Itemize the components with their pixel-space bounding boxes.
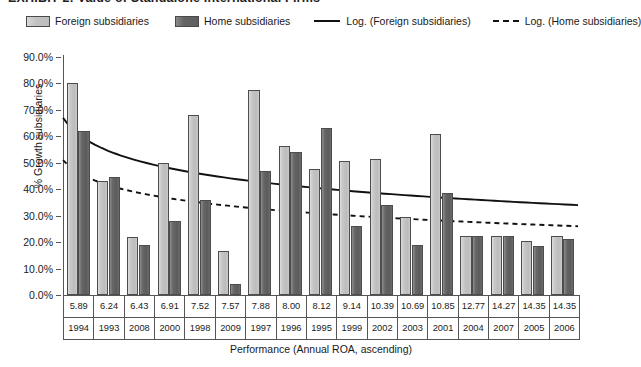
x-category-column: 8.121995	[306, 295, 337, 340]
bar-foreign	[248, 90, 259, 295]
y-tick-mark-10	[56, 269, 61, 270]
x-label-roa: 6.43	[125, 295, 154, 318]
bar-foreign	[460, 236, 471, 296]
x-label-roa: 10.85	[428, 295, 457, 318]
legend-label-log-foreign: Log. (Foreign subsidiaries)	[346, 15, 470, 27]
bar-home	[381, 205, 392, 295]
bar-foreign	[67, 83, 78, 295]
y-tick-label-0: 0.0%	[29, 289, 53, 301]
y-tick-mark-0	[56, 295, 61, 296]
x-label-roa: 12.77	[459, 295, 488, 318]
x-category-column: 14.272007	[488, 295, 519, 340]
x-label-year: 1997	[246, 318, 275, 341]
y-tick-label-50: 50.0%	[23, 157, 53, 169]
bar-foreign	[279, 146, 290, 295]
bar-home	[472, 236, 483, 296]
y-tick-label-90: 90.0%	[23, 51, 53, 63]
bar-home	[139, 245, 150, 295]
x-label-roa: 14.35	[550, 295, 579, 318]
bar-home	[109, 177, 120, 295]
x-label-roa: 8.00	[277, 295, 306, 318]
legend-item-log-home: Log. (Home subsidiaries)	[493, 15, 641, 27]
bar-foreign	[218, 251, 229, 295]
plot-area	[63, 57, 578, 295]
chart-legend: Foreign subsidiaries Home subsidiaries L…	[0, 13, 589, 29]
legend-dashed-line-icon	[493, 20, 519, 22]
bar-group	[275, 57, 305, 295]
bar-foreign	[97, 181, 108, 295]
x-category-column: 10.392002	[367, 295, 398, 340]
bar-group	[245, 57, 275, 295]
x-label-roa: 7.52	[185, 295, 214, 318]
x-label-roa: 14.35	[519, 295, 548, 318]
x-label-year: 2004	[459, 318, 488, 341]
bar-group	[63, 57, 93, 295]
legend-label-log-home: Log. (Home subsidiaries)	[525, 15, 641, 27]
x-label-roa: 6.24	[94, 295, 123, 318]
x-label-year: 2005	[519, 318, 548, 341]
bar-foreign	[339, 161, 350, 295]
x-label-year: 2006	[550, 318, 579, 341]
x-label-roa: 10.39	[368, 295, 397, 318]
x-label-year: 1994	[64, 318, 93, 341]
x-label-roa: 7.57	[216, 295, 245, 318]
y-tick-label-30: 30.0%	[23, 210, 53, 222]
x-category-column: 14.352006	[549, 295, 580, 340]
y-tick-label-10: 10.0%	[23, 263, 53, 275]
x-category-column: 7.881997	[245, 295, 276, 340]
y-tick-mark-80	[56, 83, 61, 84]
bar-home	[412, 245, 423, 295]
y-tick-mark-30	[56, 216, 61, 217]
x-category-column: 7.521998	[184, 295, 215, 340]
bar-group	[154, 57, 184, 295]
y-tick-label-40: 40.0%	[23, 183, 53, 195]
x-label-roa: 8.12	[307, 295, 336, 318]
figure-title-cropped: EXHIBIT 2: Value of Standalone Internati…	[0, 0, 589, 11]
legend-item-home-subsidiaries: Home subsidiaries	[175, 15, 290, 27]
bar-home	[442, 193, 453, 295]
x-category-column: 10.852001	[427, 295, 458, 340]
bar-foreign	[430, 134, 441, 295]
bar-foreign	[551, 236, 562, 296]
bar-group	[517, 57, 547, 295]
x-label-year: 2009	[216, 318, 245, 341]
bar-home	[533, 246, 544, 295]
bar-group	[214, 57, 244, 295]
y-tick-mark-60	[56, 136, 61, 137]
bar-group	[366, 57, 396, 295]
bar-home	[230, 284, 241, 295]
legend-swatch-icon-home	[175, 16, 199, 27]
x-label-roa: 5.89	[64, 295, 93, 318]
x-category-column: 9.141999	[336, 295, 367, 340]
bar-foreign	[309, 169, 320, 295]
y-tick-label-70: 70.0%	[23, 104, 53, 116]
bar-foreign	[521, 241, 532, 295]
y-tick-label-80: 80.0%	[23, 77, 53, 89]
y-tick-label-60: 60.0%	[23, 130, 53, 142]
x-label-year: 2008	[125, 318, 154, 341]
x-label-roa: 10.69	[398, 295, 427, 318]
x-label-year: 1996	[277, 318, 306, 341]
legend-solid-line-icon	[314, 20, 340, 22]
x-category-column: 14.352005	[518, 295, 549, 340]
y-tick-mark-70	[56, 110, 61, 111]
x-category-column: 8.001996	[276, 295, 307, 340]
x-label-year: 2001	[428, 318, 457, 341]
x-label-year: 1999	[337, 318, 366, 341]
bar-home	[78, 131, 89, 295]
x-label-year: 2000	[155, 318, 184, 341]
x-label-roa: 7.88	[246, 295, 275, 318]
bar-group	[93, 57, 123, 295]
bar-group	[548, 57, 578, 295]
x-category-column: 10.692003	[397, 295, 428, 340]
x-category-column: 6.241993	[93, 295, 124, 340]
x-label-year: 2007	[489, 318, 518, 341]
x-label-year: 1998	[185, 318, 214, 341]
x-axis-category-table: 5.8919946.2419936.4320086.9120007.521998…	[63, 295, 579, 340]
x-label-year: 1993	[94, 318, 123, 341]
x-category-column: 6.432008	[124, 295, 155, 340]
bar-group	[336, 57, 366, 295]
bar-group	[124, 57, 154, 295]
bar-group	[487, 57, 517, 295]
